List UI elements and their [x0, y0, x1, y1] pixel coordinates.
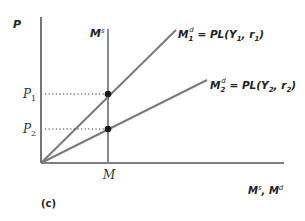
equilibrium-point-2	[105, 126, 112, 133]
equilibrium-point-1	[105, 91, 112, 98]
money-market-diagram: P Ms P1 P2 M M1d = PL(Y1, r1) M2d = PL(Y…	[0, 0, 305, 221]
price-tick-p1: P1	[22, 87, 36, 103]
panel-label: (c)	[41, 198, 56, 209]
money-supply-label: Ms	[90, 27, 105, 40]
price-tick-p2: P2	[22, 122, 36, 138]
money-quantity-tick: M	[102, 168, 116, 182]
x-axis-label: Ms, Md	[248, 184, 284, 196]
y-axis-label: P	[13, 18, 21, 31]
demand-curve-1-label: M1d = PL(Y1, r1)	[178, 26, 264, 43]
money-demand-curve-2	[41, 80, 207, 163]
demand-curve-2-label: M2d = PL(Y2, r2)	[210, 77, 296, 94]
